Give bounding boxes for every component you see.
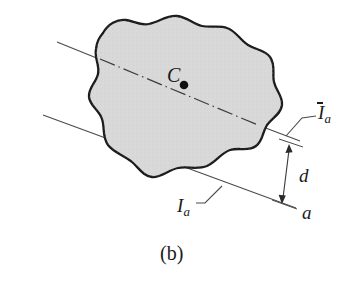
centroid-label: C bbox=[167, 65, 180, 85]
distance-arrow-up bbox=[285, 144, 292, 153]
centroidal-axis-leader-line bbox=[286, 116, 316, 136]
figure-container: C I a Ia d a (b) bbox=[0, 0, 362, 285]
centroidal-axis-subscript: a bbox=[325, 111, 331, 126]
figure-caption: (b) bbox=[160, 243, 183, 263]
centroidal-axis-symbol: I bbox=[318, 102, 324, 123]
distance-label: d bbox=[299, 166, 309, 185]
parallel-axis-label: Ia bbox=[177, 196, 190, 219]
centroidal-axis-symbol-wrap: I bbox=[318, 103, 324, 122]
axis-point-label: a bbox=[302, 203, 312, 222]
parallel-axis-symbol: I bbox=[177, 195, 183, 216]
centroid-dot bbox=[180, 81, 189, 90]
distance-dimension-line bbox=[283, 150, 289, 198]
shaded-area-texture bbox=[80, 10, 295, 185]
parallel-axis-leader-line bbox=[196, 186, 222, 203]
parallel-axis-subscript: a bbox=[184, 204, 190, 219]
overbar-icon bbox=[317, 102, 323, 104]
centroidal-axis-label: I a bbox=[318, 103, 331, 126]
dimension-tick-bottom bbox=[272, 200, 297, 209]
